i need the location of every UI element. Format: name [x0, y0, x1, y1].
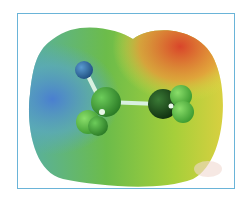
- potential-surface: [29, 27, 223, 186]
- figure-frame: [17, 13, 235, 189]
- atom-center-left: [91, 87, 121, 117]
- atom-right-b: [172, 101, 194, 123]
- electrostatic-potential-map: [18, 14, 235, 189]
- atom-blue: [75, 61, 93, 79]
- atom-highlight: [99, 109, 105, 115]
- atom-lower-left-b: [88, 116, 108, 136]
- atom-highlight: [169, 104, 174, 109]
